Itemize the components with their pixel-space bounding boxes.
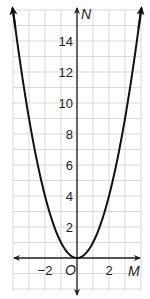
axes — [14, 8, 140, 295]
y-tick-label: 12 — [59, 65, 73, 80]
x-tick-label: −2 — [38, 263, 53, 278]
x-axis-label: M — [128, 263, 140, 279]
y-tick-label: 14 — [59, 34, 73, 49]
y-tick-label: 4 — [66, 189, 73, 204]
y-axis-label: N — [81, 6, 92, 22]
y-tick-label: 6 — [66, 158, 73, 173]
y-tick-label: 8 — [66, 127, 73, 142]
y-tick-label: 10 — [59, 96, 73, 111]
origin-label: O — [65, 262, 76, 278]
y-tick-label: 2 — [66, 220, 73, 235]
tick-labels: −222468101214 — [38, 34, 113, 278]
x-tick-label: 2 — [105, 263, 112, 278]
parabola-chart: −222468101214 M N O — [0, 0, 150, 299]
